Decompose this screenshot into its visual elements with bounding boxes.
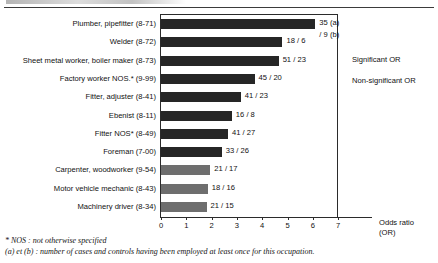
x-axis-tick <box>161 217 162 220</box>
legend-entry-non-significant: Non-significant OR <box>352 76 436 86</box>
x-axis-tick <box>338 217 339 220</box>
category-label: Carpenter, woodworker (9-54) <box>55 164 156 175</box>
bar <box>161 74 255 84</box>
bar-row: Plumber, pipefitter (8-71)35 (a)/ 9 (b) <box>0 16 438 34</box>
x-axis-tick <box>212 217 213 220</box>
bar-row: Ebenist (8-11)16 / 8 <box>0 108 438 126</box>
bar <box>161 111 232 121</box>
bar-row: Machinery driver (8-34)21 / 15 <box>0 199 438 217</box>
bar-row: Motor vehicle mechanic (8-43)18 / 16 <box>0 181 438 199</box>
category-label: Sheet metal worker, boiler maker (8-73) <box>23 55 156 66</box>
figure-container: Plumber, pipefitter (8-71)35 (a)/ 9 (b)W… <box>0 0 438 263</box>
bar-value-label: 51 / 23 <box>283 55 306 65</box>
category-label: Ebenist (8-11) <box>109 110 156 121</box>
category-label: Fitter, adjuster (8-41) <box>86 91 156 102</box>
bar-row: Fitter NOS* (8-49)41 / 27 <box>0 126 438 144</box>
bar <box>161 92 241 102</box>
category-label: Welder (8-72) <box>110 36 156 47</box>
x-axis-tick-label: 5 <box>278 221 298 230</box>
legend-entry-significant: Significant OR <box>352 55 436 65</box>
bar-value-label: 21 / 17 <box>214 164 237 174</box>
category-label: Factory worker NOS.* (9-99) <box>60 73 156 84</box>
bar <box>161 37 282 47</box>
x-axis-tick-label: 0 <box>151 221 171 230</box>
x-axis-tick-label: 6 <box>303 221 323 230</box>
bar-row: Foreman (7-00)33 / 26 <box>0 144 438 162</box>
bar-value-label: 33 / 26 <box>226 146 249 156</box>
x-axis-tick <box>313 217 314 220</box>
footnote-1: * NOS : not otherwise specified <box>5 235 435 246</box>
x-axis-tick <box>186 217 187 220</box>
bar-row: Carpenter, woodworker (9-54)21 / 17 <box>0 162 438 180</box>
bar-value-label: 16 / 8 <box>236 110 255 120</box>
bar-value-label: 21 / 15 <box>211 201 234 211</box>
x-axis-tick-label: 4 <box>252 221 272 230</box>
x-axis-tick-label: 1 <box>176 221 196 230</box>
bar-value-label: 18 / 16 <box>212 183 235 193</box>
x-axis-tick <box>237 217 238 220</box>
bar-value-label: 45 / 20 <box>259 73 282 83</box>
x-axis-tick-label: 2 <box>202 221 222 230</box>
category-label: Plumber, pipefitter (8-71) <box>72 18 156 29</box>
bar <box>161 165 210 175</box>
bar-row: Welder (8-72)18 / 6 <box>0 34 438 52</box>
x-axis-title-line1: Odds ratio <box>379 218 437 228</box>
bar <box>161 202 207 212</box>
category-label: Machinery driver (8-34) <box>78 201 157 212</box>
bar <box>161 147 222 157</box>
category-label: Foreman (7-00) <box>103 146 156 157</box>
bar-value-label: 41 / 23 <box>245 91 268 101</box>
bar <box>161 56 279 66</box>
x-axis-tick <box>288 217 289 220</box>
x-axis-tick <box>262 217 263 220</box>
bar <box>161 19 315 29</box>
footnotes-block: * NOS : not otherwise specified(a) et (b… <box>5 235 435 257</box>
category-label: Fitter NOS* (8-49) <box>95 128 156 139</box>
x-axis-tick-label: 3 <box>227 221 247 230</box>
bar-value-label: 18 / 6 <box>286 36 305 46</box>
bar-value-label: 41 / 27 <box>232 128 255 138</box>
category-label: Motor vehicle mechanic (8-43) <box>54 183 156 194</box>
x-axis-line <box>160 217 372 218</box>
top-horizontal-rule <box>4 7 434 8</box>
bar <box>161 184 208 194</box>
chart-legend: Significant ORNon-significant OR <box>352 55 436 97</box>
bar <box>161 129 228 139</box>
footnote-2: (a) et (b) : number of cases and control… <box>5 246 435 257</box>
x-axis-tick-label: 7 <box>328 221 348 230</box>
top-clipped-text <box>6 0 186 4</box>
